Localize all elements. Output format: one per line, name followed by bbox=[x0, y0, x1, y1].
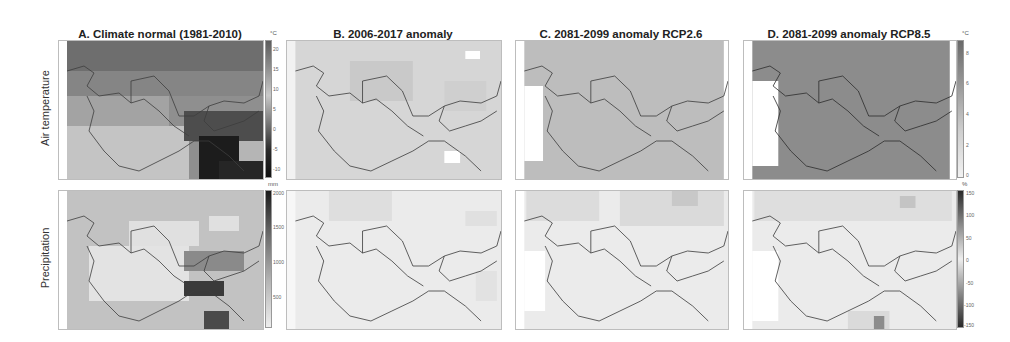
map-a-precipitation bbox=[58, 190, 264, 330]
cbar-tick: 0 bbox=[966, 172, 969, 178]
cbar-tick: 50 bbox=[966, 235, 972, 241]
colorbar-temp-normal-unit: °C bbox=[270, 30, 277, 36]
panel-title-b: B. 2006-2017 anomaly bbox=[286, 28, 500, 40]
cbar-tick: 1000 bbox=[273, 259, 284, 265]
cbar-tick: -150 bbox=[964, 322, 974, 328]
map-a-temperature bbox=[58, 40, 264, 180]
colorbar-precip-anomaly-unit: % bbox=[962, 181, 967, 187]
map-c-precipitation bbox=[515, 190, 729, 330]
panel-title-d: D. 2081-2099 anomaly RCP8.5 bbox=[743, 28, 955, 40]
cbar-tick: 5 bbox=[273, 106, 276, 112]
cbar-tick: 8 bbox=[966, 50, 969, 56]
colorbar-temp-anomaly-unit: °C bbox=[962, 30, 969, 36]
cbar-tick: 500 bbox=[273, 294, 281, 300]
row-label-precipitation: Precipitation bbox=[39, 198, 51, 318]
panel-title-a: A. Climate normal (1981-2010) bbox=[58, 28, 262, 40]
cbar-tick: -100 bbox=[964, 302, 974, 308]
cbar-tick: 20 bbox=[273, 46, 279, 52]
cbar-tick: 2 bbox=[966, 142, 969, 148]
colorbar-precip-anomaly bbox=[957, 190, 964, 328]
cbar-tick: 0 bbox=[273, 126, 276, 132]
row-label-air-temperature: Air temperature bbox=[39, 48, 51, 168]
cbar-tick: 150 bbox=[966, 190, 974, 196]
colorbar-precip-normal-unit: mm bbox=[268, 181, 278, 187]
cbar-tick: 2000 bbox=[273, 190, 284, 196]
map-d-precipitation bbox=[743, 190, 957, 330]
colorbar-temp-normal bbox=[265, 40, 272, 178]
map-d-temperature bbox=[743, 40, 957, 180]
map-c-temperature bbox=[515, 40, 729, 180]
cbar-tick: 0 bbox=[966, 257, 969, 263]
cbar-tick: 6 bbox=[966, 80, 969, 86]
cbar-tick: 10 bbox=[273, 86, 279, 92]
colorbar-precip-normal bbox=[265, 190, 272, 328]
cbar-tick: 1500 bbox=[273, 224, 284, 230]
cbar-tick: 15 bbox=[273, 66, 279, 72]
cbar-tick: -50 bbox=[966, 280, 973, 286]
map-b-precipitation bbox=[286, 190, 502, 330]
map-b-temperature bbox=[286, 40, 502, 180]
cbar-tick: -10 bbox=[273, 166, 280, 172]
panel-title-c: C. 2081-2099 anomaly RCP2.6 bbox=[515, 28, 727, 40]
cbar-tick: 100 bbox=[966, 212, 974, 218]
colorbar-temp-anomaly bbox=[957, 40, 964, 178]
cbar-tick: -5 bbox=[273, 146, 277, 152]
cbar-tick: 4 bbox=[966, 111, 969, 117]
